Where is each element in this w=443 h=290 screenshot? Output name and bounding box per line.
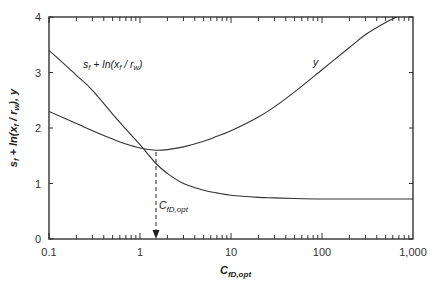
curves bbox=[49, 17, 413, 199]
curve-label-y: y bbox=[312, 56, 319, 68]
x-tick-label: 10 bbox=[225, 246, 237, 258]
y-axis-title: sf + ln(xf / rw), y bbox=[7, 88, 21, 167]
annotation-cfd-opt: CfD,opt bbox=[159, 199, 189, 214]
y-tick-label: 4 bbox=[35, 11, 41, 23]
x-tick-label: 1,000 bbox=[399, 246, 427, 258]
arrow-head-icon bbox=[153, 230, 160, 239]
x-tick-labels: 0.11101001,000 bbox=[41, 246, 426, 258]
x-axis-title: CfD,opt bbox=[220, 264, 251, 279]
y-tick-label: 1 bbox=[35, 178, 41, 190]
plot-frame bbox=[49, 17, 413, 239]
curve-sf-ln bbox=[49, 50, 413, 199]
y-tick-labels: 01234 bbox=[35, 11, 41, 245]
axis-ticks bbox=[49, 17, 413, 239]
curve-y bbox=[49, 17, 397, 150]
x-tick-label: 0.1 bbox=[41, 246, 56, 258]
y-tick-label: 2 bbox=[35, 122, 41, 134]
chart: 01234 0.11101001,000 sf + ln(xf / rw) y … bbox=[0, 0, 443, 290]
y-tick-label: 3 bbox=[35, 67, 41, 79]
x-tick-label: 1 bbox=[137, 246, 143, 258]
x-tick-label: 100 bbox=[313, 246, 331, 258]
curve-label-sf-ln: sf + ln(xf / rw) bbox=[83, 58, 143, 72]
y-tick-label: 0 bbox=[35, 233, 41, 245]
